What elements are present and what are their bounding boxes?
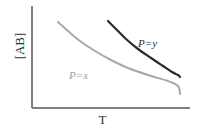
y-axis-label: [AB] <box>12 18 28 74</box>
chart-figure: [AB] T P=y P=x <box>0 0 205 131</box>
curve-label-p-equals-y: P=y <box>138 37 157 49</box>
curve-p-equals-y <box>108 21 180 77</box>
curve-label-p-equals-x: P=x <box>69 69 88 81</box>
x-axis-label: T <box>0 112 205 128</box>
